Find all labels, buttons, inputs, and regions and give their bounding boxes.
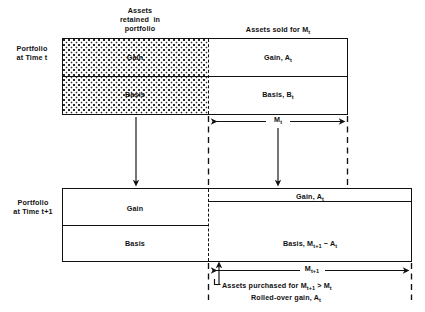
callout-leader-assets-purchased [215, 265, 221, 285]
portfolio-rollover-diagram: Assets retained in portfolio Assets sold… [0, 0, 425, 312]
diagram-arrows-overlay [0, 0, 425, 312]
